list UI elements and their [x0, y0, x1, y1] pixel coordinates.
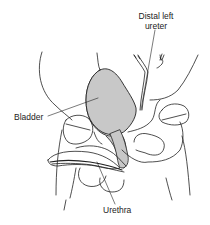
obturator-center: [134, 133, 164, 155]
label-bladder: Bladder: [14, 112, 43, 122]
pubic-arch: [122, 122, 183, 162]
right-lower-line: [166, 178, 172, 200]
left-ischial-loop: [78, 168, 106, 187]
label-urethra: Urethra: [103, 205, 131, 215]
left-lower-line: [64, 200, 66, 210]
label-distal-left-ureter: Distal left ureter: [135, 11, 177, 31]
right-iliac-outline: [150, 55, 198, 100]
left-joint-line: [66, 124, 90, 130]
left-upper-line: [97, 53, 100, 70]
anatomical-diagram: Distal left ureter Bladder Urethra: [0, 0, 210, 225]
right-joint-line: [162, 114, 186, 120]
right-vessel-ticks: [160, 54, 164, 60]
left-iliac-outline: [39, 52, 72, 120]
right-femur-shaft: [182, 136, 190, 195]
ureter-leader-line: [141, 30, 155, 110]
left-femur-shaft-inner: [70, 168, 76, 198]
ureter-top-ticks: [134, 55, 140, 59]
left-inner-curve: [94, 132, 102, 144]
bladder-shape: [86, 69, 136, 135]
left-femur-shaft-outer: [56, 130, 62, 195]
urethra-lumen-line2: [52, 163, 124, 172]
label-ureter-line1: Distal left: [135, 11, 177, 21]
center-ischial-loop: [100, 178, 124, 192]
label-ureter-line2: ureter: [135, 21, 177, 31]
